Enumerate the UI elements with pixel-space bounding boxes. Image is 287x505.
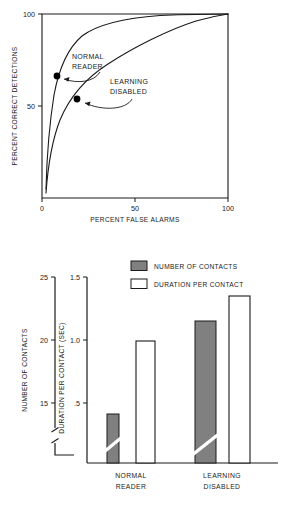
legend-swatch-number-of-contacts xyxy=(131,261,147,271)
left-axis-tick-label-20: 20 xyxy=(40,336,48,345)
roc-ytick-label-50: 50 xyxy=(27,102,35,111)
legend-label-duration-per-contact: DURATION PER CONTACT xyxy=(154,281,244,288)
roc-yaxis-title: PERCENT CORRECT DETECTIONS xyxy=(11,46,18,165)
figure-container: 100 50 0 50 100 PERCENT FALSE ALARMS PER… xyxy=(0,0,287,505)
left-axis-tick-label-25: 25 xyxy=(40,273,48,282)
right-axis-title: DURATION PER CONTACT (SEC) xyxy=(58,322,66,433)
annotation-normal-reader-line1: NORMAL xyxy=(72,53,104,60)
category-label-normal-reader-line2: READER xyxy=(116,483,147,490)
bar-duration-per-contact-learning-disabled xyxy=(229,296,250,463)
annotation-normal-reader-line2: READER xyxy=(72,63,103,70)
roc-xtick-label-100: 100 xyxy=(222,204,234,213)
roc-xtick-label-50: 50 xyxy=(131,204,139,213)
normal-reader-point xyxy=(54,73,61,80)
figure-svg: 100 50 0 50 100 PERCENT FALSE ALARMS PER… xyxy=(0,0,287,505)
learning-disabled-point xyxy=(74,96,81,103)
category-label-learning-disabled-line2: DISABLED xyxy=(204,483,241,490)
right-axis-tick-label-1-0: 1.0 xyxy=(70,336,80,345)
right-axis-tick-label-0-5: .5 xyxy=(74,399,80,408)
bar-number-of-contacts-learning-disabled xyxy=(195,321,216,463)
roc-xtick-label-0: 0 xyxy=(40,204,44,213)
legend-swatch-duration-per-contact xyxy=(131,279,147,289)
legend-label-number-of-contacts: NUMBER OF CONTACTS xyxy=(154,263,238,270)
category-label-learning-disabled-line1: LEARNING xyxy=(203,472,241,479)
left-axis-title: NUMBER OF CONTACTS xyxy=(21,328,28,412)
left-axis-tick-label-15: 15 xyxy=(40,399,48,408)
bar-duration-per-contact-normal-reader xyxy=(136,341,155,463)
annotation-learning-disabled-line1: LEARNING xyxy=(110,78,148,85)
roc-xaxis-title: PERCENT FALSE ALARMS xyxy=(90,216,180,223)
annotation-learning-disabled-line2: DISABLED xyxy=(110,88,147,95)
category-label-normal-reader-line1: NORMAL xyxy=(115,472,146,479)
bar-number-of-contacts-normal-reader xyxy=(107,414,119,463)
roc-ytick-label-100: 100 xyxy=(23,10,35,19)
right-axis-tick-label-1-5: 1.5 xyxy=(70,273,80,282)
